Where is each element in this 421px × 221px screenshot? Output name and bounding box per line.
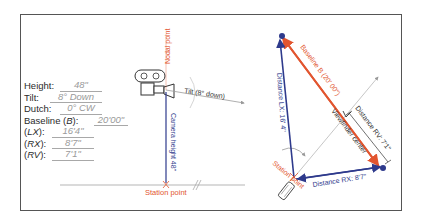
- camera-top-icon: [278, 181, 295, 200]
- rotation-arc-icon: [282, 148, 305, 156]
- distance-lx-label: Distance LX: 16' 4": [276, 73, 287, 133]
- side-view: Nodal point Tilt (8° down) Camera height…: [60, 29, 245, 197]
- station-point-label: Station point: [145, 188, 188, 197]
- top-view: Baseline B (20' 00") Distance LX: 16' 4"…: [271, 33, 393, 200]
- camera-height-label: Camera height 48": [169, 113, 177, 172]
- nodal-point-label: Nodal point: [164, 29, 172, 64]
- movie-camera-icon: [135, 70, 174, 98]
- right-point-marker: [380, 165, 386, 171]
- left-point-marker: [279, 33, 285, 39]
- tilt-label: Tilt (8° down): [184, 87, 226, 101]
- diagram-canvas: Nodal point Tilt (8° down) Camera height…: [0, 0, 421, 221]
